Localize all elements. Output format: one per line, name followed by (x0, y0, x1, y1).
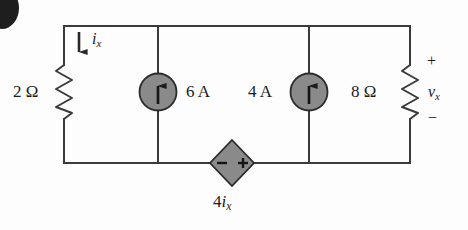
page-edge-blob (0, 0, 19, 29)
circuit-schematic-canvas (0, 0, 468, 230)
current-ix-subscript: x (96, 37, 101, 49)
resistor-left-symbol (56, 65, 72, 119)
dependent-source-label: 4ix (213, 193, 231, 213)
voltage-vx-label: vx (428, 84, 440, 102)
current-source-2-label: 4 A (248, 83, 272, 100)
current-source-1-symbol (140, 74, 177, 111)
resistor-right-symbol (402, 65, 418, 119)
current-ix-label: ix (92, 31, 101, 49)
dependent-source-label-subscript: x (226, 200, 231, 213)
resistor-right-label: 8 Ω (351, 83, 376, 100)
voltage-vx-minus-sign: − (428, 110, 437, 126)
current-source-1-label: 6 A (186, 83, 210, 100)
circuit-figure: 2 Ω 6 A 4 A 8 Ω ix vx + − 4ix (0, 0, 468, 230)
dependent-voltage-source-symbol (210, 140, 254, 186)
dependent-source-label-prefix: 4 (213, 192, 222, 211)
voltage-vx-plus-sign: + (427, 53, 436, 69)
current-source-2-symbol (291, 74, 328, 111)
voltage-vx-subscript: x (435, 90, 440, 102)
resistor-left-label: 2 Ω (13, 83, 38, 100)
